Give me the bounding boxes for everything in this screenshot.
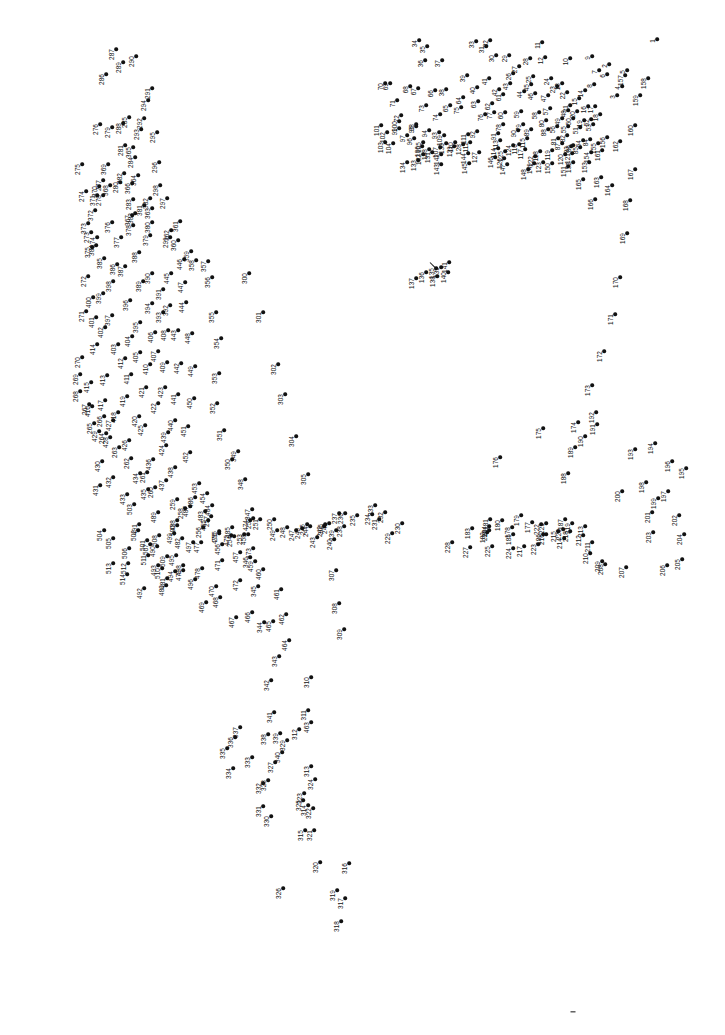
dot-label-456: 456 — [215, 544, 221, 555]
dot-label-192: 192 — [589, 412, 595, 423]
dot-label-446: 446 — [177, 259, 183, 270]
dot-label-514: 514 — [120, 574, 126, 585]
dot-label-203: 203 — [646, 532, 652, 543]
dot-label-340: 340 — [275, 752, 281, 763]
dot-label-147: 147 — [500, 164, 506, 175]
dot-label-312: 312 — [292, 729, 298, 740]
dot-label-17: 17 — [588, 106, 594, 113]
dot-label-318: 318 — [334, 921, 340, 932]
dot-label-70: 70 — [378, 83, 384, 90]
dot-label-337: 337 — [233, 727, 239, 738]
dot-label-445: 445 — [164, 273, 170, 284]
dot-label-129: 129 — [447, 146, 453, 157]
dot-label-96: 96 — [407, 138, 413, 145]
dot-label-498: 498 — [176, 565, 182, 576]
dot-label-223: 223 — [531, 544, 537, 555]
dot-label-123: 123 — [536, 162, 542, 173]
dot-label-482: 482 — [175, 538, 181, 549]
dot-label-22: 22 — [560, 92, 566, 99]
dot-label-355: 355 — [209, 312, 215, 323]
dot-label-492: 492 — [137, 588, 143, 599]
dot-label-224: 224 — [506, 548, 512, 559]
dot-label-145: 145 — [462, 163, 468, 174]
dot-label-369: 369 — [101, 164, 107, 175]
dot-label-287: 287 — [109, 49, 115, 60]
dot-label-481: 481 — [160, 578, 166, 589]
dot-label-500: 500 — [170, 525, 176, 536]
dot-label-461: 461 — [274, 589, 280, 600]
dot-label-188: 188 — [561, 473, 567, 484]
dot-label-307: 307 — [329, 570, 335, 581]
dot-label-272: 272 — [81, 276, 87, 287]
dot-label-274: 274 — [79, 191, 85, 202]
dot-label-390: 390 — [145, 273, 151, 284]
dot-label-207: 207 — [619, 567, 625, 578]
dot-label-313: 313 — [304, 766, 310, 777]
dot-label-513: 513 — [106, 563, 112, 574]
dot-label-398: 398 — [106, 281, 112, 292]
dot-label-185: 185 — [506, 534, 512, 545]
dot-label-202: 202 — [672, 515, 678, 526]
dot-label-363: 363 — [145, 208, 151, 219]
dot-label-213: 213 — [578, 526, 584, 537]
dot-label-293: 293 — [134, 129, 140, 140]
dot-label-357: 357 — [201, 261, 207, 272]
dot-label-84: 84 — [583, 139, 589, 146]
dot-label-206: 206 — [660, 565, 666, 576]
dot-label-97: 97 — [400, 135, 406, 142]
dot-label-366: 366 — [125, 183, 131, 194]
dot-label-141: 141 — [442, 262, 448, 273]
dot-label-399: 399 — [96, 293, 102, 304]
dot-label-237: 237 — [332, 513, 338, 524]
dot-label-94: 94 — [422, 130, 428, 137]
dot-label-279: 279 — [105, 127, 111, 138]
dot-label-439: 439 — [161, 432, 167, 443]
dot-label-432: 432 — [106, 477, 112, 488]
dot-label-198: 198 — [639, 482, 645, 493]
dot-label-386: 386 — [110, 264, 116, 275]
dot-label-90: 90 — [511, 130, 517, 137]
dot-label-426: 426 — [122, 440, 128, 451]
dot-label-335: 335 — [220, 748, 226, 759]
dot-label-409: 409 — [160, 362, 166, 373]
dot-label-189: 189 — [568, 447, 574, 458]
dot-label-167: 167 — [628, 169, 634, 180]
dot-label-43: 43 — [503, 83, 509, 90]
dot-label-421: 421 — [139, 387, 145, 398]
dot-label-414: 414 — [90, 344, 96, 355]
dot-label-503: 503 — [127, 504, 133, 515]
dot-label-222: 222 — [534, 524, 540, 535]
dot-label-46: 46 — [528, 93, 534, 100]
dot-label-146: 146 — [488, 157, 494, 168]
dot-label-7: 7 — [592, 70, 598, 74]
dot-label-157: 157 — [618, 75, 624, 86]
dot-label-387: 387 — [118, 266, 124, 277]
dot-label-379: 379 — [143, 235, 149, 246]
dot-label-29: 29 — [502, 55, 508, 62]
dot-label-372: 372 — [88, 210, 94, 221]
dot-label-451: 451 — [181, 426, 187, 437]
dot-label-505: 505 — [106, 538, 112, 549]
dot-label-225: 225 — [485, 546, 491, 557]
dot-label-63: 63 — [471, 101, 477, 108]
dot-label-368: 368 — [103, 185, 109, 196]
dot-label-73: 73 — [419, 105, 425, 112]
dot-label-404: 404 — [125, 336, 131, 347]
dot-label-466: 466 — [245, 612, 251, 623]
dot-label-427: 427 — [106, 420, 112, 431]
dot-label-34: 34 — [412, 40, 418, 47]
dot-label-453: 453 — [192, 483, 198, 494]
dot-label-290: 290 — [129, 56, 135, 67]
dot-label-58: 58 — [532, 112, 538, 119]
dot-label-88: 88 — [541, 129, 547, 136]
dot-label-152: 152 — [566, 162, 572, 173]
dot-label-23: 23 — [550, 86, 556, 93]
dot-label-26: 26 — [506, 73, 512, 80]
dot-label-149: 149 — [527, 163, 533, 174]
dot-label-394: 394 — [145, 303, 151, 314]
dot-label-281: 281 — [118, 145, 124, 156]
dot-label-354: 354 — [214, 338, 220, 349]
dot-label-76: 76 — [478, 114, 484, 121]
dot-label-317: 317 — [338, 898, 344, 909]
dot-label-271: 271 — [79, 311, 85, 322]
